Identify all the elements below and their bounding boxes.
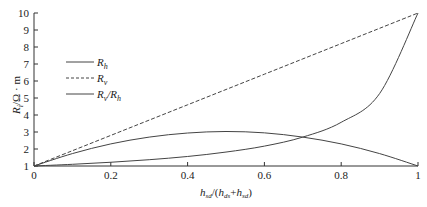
legend-label-rv: Rv [96,72,108,87]
x-axis-label: hsd/(hds+hsd) [200,186,252,200]
y-tick-label: 9 [24,24,30,36]
line-chart: 12345678910 00.20.40.60.81 Rh Rv Rv/Rh R… [0,0,427,207]
y-tick-label: 5 [24,92,30,104]
x-tick-label: 0.2 [104,169,118,181]
x-tick-label: 0.8 [334,169,348,181]
y-tick-label: 2 [24,143,30,155]
x-tick-label: 0 [31,169,37,181]
x-ticks: 00.20.40.60.81 [31,162,421,181]
y-tick-label: 10 [18,7,30,19]
y-tick-label: 7 [24,58,30,70]
legend-label-rh: Rh [96,56,108,71]
y-tick-label: 3 [24,126,30,138]
series-line-2 [34,131,418,166]
y-tick-label: 4 [24,109,30,121]
x-tick-label: 1 [415,169,421,181]
y-tick-label: 6 [24,75,30,87]
y-tick-label: 1 [24,160,30,172]
series-lines [34,13,418,166]
legend: Rh Rv Rv/Rh [66,56,121,103]
x-tick-label: 0.4 [181,169,195,181]
y-tick-label: 8 [24,41,30,53]
series-line-1 [34,13,418,166]
legend-label-ratio: Rv/Rh [96,88,121,103]
x-tick-label: 0.6 [258,169,272,181]
